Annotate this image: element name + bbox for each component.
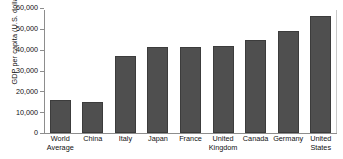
bar — [115, 56, 136, 133]
y-tick-mark — [40, 71, 44, 72]
gdp-per-capita-bar-chart: GDP per capita (U.S. dollars) 010,00020,… — [0, 0, 343, 159]
bar — [180, 47, 201, 133]
plot-area — [44, 8, 337, 133]
bar — [278, 31, 299, 133]
y-tick-mark — [40, 133, 44, 134]
x-axis-labels: WorldAverageChinaItalyJapanFranceUnitedK… — [44, 135, 337, 159]
x-tick-label-line: Average — [37, 144, 83, 153]
y-tick-mark — [40, 50, 44, 51]
x-tick-label: UnitedStates — [298, 135, 343, 152]
y-tick-label: 30,000 — [2, 67, 38, 74]
bar — [50, 100, 71, 133]
y-tick-label: 20,000 — [2, 88, 38, 95]
y-axis-labels: 010,00020,00030,00040,00050,00060,000 — [0, 8, 38, 133]
bar — [213, 46, 234, 134]
y-tick-label: 0 — [2, 129, 38, 136]
y-tick-label: 60,000 — [2, 4, 38, 11]
bar — [82, 102, 103, 133]
bar — [147, 47, 168, 133]
bar — [310, 16, 331, 133]
bar — [245, 40, 266, 133]
y-tick-label: 40,000 — [2, 46, 38, 53]
y-tick-mark — [40, 91, 44, 92]
x-tick-label-line: States — [298, 144, 343, 153]
y-tick-mark — [40, 112, 44, 113]
y-tick-label: 50,000 — [2, 25, 38, 32]
y-tick-mark — [40, 8, 44, 9]
bar-series — [44, 8, 337, 133]
y-tick-label: 10,000 — [2, 109, 38, 116]
y-tick-mark — [40, 29, 44, 30]
x-tick-label-line: Kingdom — [200, 144, 246, 153]
